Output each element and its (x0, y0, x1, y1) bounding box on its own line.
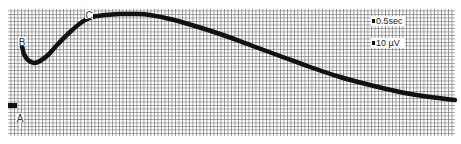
baseline-marker (8, 103, 17, 108)
annotation-label-c: C (85, 10, 92, 21)
annotation-label-b: B (19, 37, 26, 48)
scale-marker-square (372, 19, 375, 23)
voltage-scale-label: 10 µV (376, 38, 400, 48)
time-scale-label: 0.5sec (376, 16, 403, 26)
scale-marker-square (372, 41, 375, 45)
waveform-chart: 0.5sec10 µV BCA (0, 0, 461, 144)
annotation-label-a: A (17, 113, 24, 124)
